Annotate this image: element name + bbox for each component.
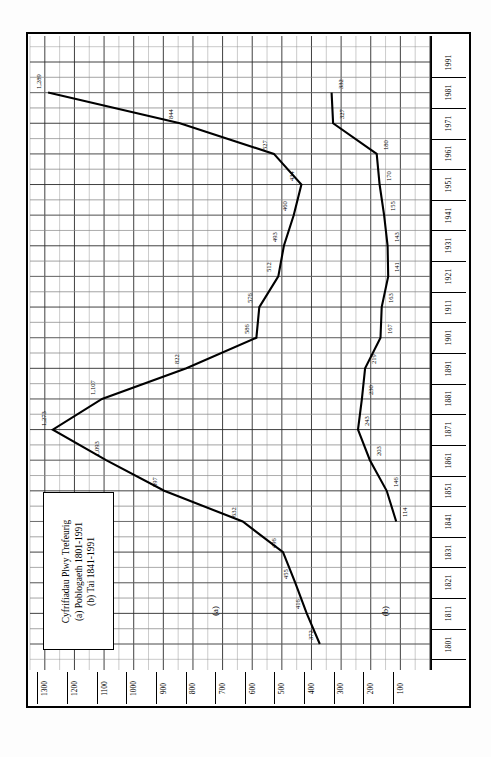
data-label: 230	[367, 385, 374, 395]
year-axis-tick-label: 1861	[432, 451, 466, 469]
value-axis-tick	[334, 672, 335, 704]
data-label: 219	[370, 354, 377, 364]
value-label-text: 900	[159, 682, 168, 693]
year-axis-tick-label: 1821	[432, 574, 466, 592]
value-axis-tick	[245, 672, 246, 704]
data-label: 1,107	[89, 380, 96, 395]
data-label: 632	[230, 508, 237, 518]
data-label: 512	[265, 263, 272, 273]
data-label: 143	[393, 232, 400, 242]
series-tag-b-text: (b)	[380, 606, 390, 616]
value-label-text: 700	[218, 682, 227, 693]
data-label: 1,093	[93, 441, 100, 456]
year-label-text: 1941	[445, 207, 454, 223]
data-label: 455	[282, 569, 289, 579]
value-axis-tick-label: 1300	[31, 672, 59, 704]
data-label: 146	[392, 477, 399, 487]
data-label: 576	[246, 293, 253, 303]
value-axis-tick-label: 600	[238, 672, 266, 704]
page-corner-mark	[474, 737, 478, 741]
value-axis-tick-label: 900	[149, 672, 177, 704]
year-axis-tick	[432, 108, 466, 109]
value-label-text: 500	[277, 682, 286, 693]
data-label: 327	[338, 109, 345, 119]
value-label-text: 300	[337, 682, 346, 693]
year-axis-tick-label: 1991	[432, 53, 466, 71]
value-axis-tick-label: 200	[357, 672, 385, 704]
year-axis-tick	[432, 169, 466, 170]
year-label-text: 1921	[445, 269, 454, 285]
value-axis-tick	[67, 672, 68, 704]
year-label-text: 1871	[445, 422, 454, 438]
year-label-text: 1991	[445, 54, 454, 70]
value-axis-tick	[274, 672, 275, 704]
value-axis: 1002003004005006007008009001000110012001…	[30, 672, 430, 704]
year-axis-tick	[432, 567, 466, 568]
year-axis-tick	[432, 77, 466, 78]
year-label-text: 1931	[445, 238, 454, 254]
year-axis-tick	[432, 598, 466, 599]
year-label-text: 1981	[445, 85, 454, 101]
legend-box: Cyfrifiadau Plwy Trefeurig (a) Poblogaet…	[43, 492, 114, 650]
data-label: 243	[363, 416, 370, 426]
value-axis-tick-label: 1000	[120, 672, 148, 704]
data-label: 114	[401, 508, 408, 518]
year-label-text: 1971	[445, 115, 454, 131]
data-label: 822	[173, 354, 180, 364]
year-axis-tick	[432, 261, 466, 262]
value-axis-tick-label: 300	[327, 672, 355, 704]
data-label: 844	[167, 109, 174, 119]
legend-entry-a: (a) Poblogaeth 1801-1991	[73, 519, 85, 622]
value-label-text: 800	[188, 682, 197, 693]
year-label-text: 1891	[445, 360, 454, 376]
year-axis-tick	[432, 445, 466, 446]
year-axis-tick-label: 1841	[432, 512, 466, 530]
year-axis-tick	[432, 139, 466, 140]
year-axis-tick-label: 1931	[432, 237, 466, 255]
year-axis-tick	[432, 414, 466, 415]
value-axis-tick-label: 1200	[60, 672, 88, 704]
legend-content: Cyfrifiadau Plwy Trefeurig (a) Poblogaet…	[60, 519, 97, 622]
data-label: 586	[243, 324, 250, 334]
value-axis-tick	[97, 672, 98, 704]
year-axis-tick-label: 1831	[432, 543, 466, 561]
value-label-text: 400	[307, 682, 316, 693]
year-label-text: 1841	[445, 514, 454, 530]
data-label: 203	[375, 446, 382, 456]
year-label-text: 1851	[445, 483, 454, 499]
value-axis-tick-label: 700	[209, 672, 237, 704]
year-axis-tick-label: 1901	[432, 329, 466, 347]
year-axis-tick	[432, 506, 466, 507]
value-axis-tick	[304, 672, 305, 704]
data-label: 416	[294, 599, 301, 609]
year-label-text: 1901	[445, 330, 454, 346]
year-label-text: 1821	[445, 575, 454, 591]
value-axis-tick	[156, 672, 157, 704]
value-label-text: 1200	[70, 681, 79, 696]
data-label: 1,289	[35, 74, 42, 89]
value-axis-tick	[126, 672, 127, 704]
year-axis-tick-label: 1881	[432, 390, 466, 408]
data-label: 332	[337, 79, 344, 89]
value-axis-tick	[37, 672, 38, 704]
data-label: 460	[281, 201, 288, 211]
value-label-text: 1000	[129, 681, 138, 696]
year-label-text: 1811	[445, 606, 454, 622]
data-label: 167	[386, 324, 393, 334]
year-axis-tick	[432, 200, 466, 201]
year-label-text: 1951	[445, 177, 454, 193]
value-axis-tick-label: 100	[386, 672, 414, 704]
value-axis-tick	[363, 672, 364, 704]
year-axis-tick	[432, 384, 466, 385]
year-axis-tick	[432, 659, 466, 660]
value-label-text: 1300	[40, 681, 49, 696]
data-label: 372	[307, 630, 314, 640]
data-label: 155	[389, 201, 396, 211]
year-axis-tick	[432, 353, 466, 354]
series-tag-a-text: (a)	[210, 606, 220, 615]
data-label: 496	[270, 538, 277, 548]
year-axis-tick-label: 1941	[432, 206, 466, 224]
year-axis-tick	[432, 476, 466, 477]
year-label-text: 1881	[445, 391, 454, 407]
value-axis-tick	[215, 672, 216, 704]
